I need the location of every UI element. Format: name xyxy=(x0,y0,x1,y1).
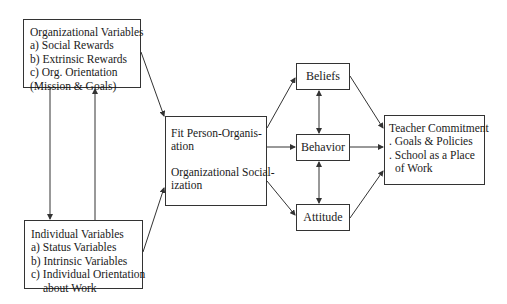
individual-item: c) Individual Orientation xyxy=(31,268,142,281)
teacher-title: Teacher Commitment xyxy=(389,122,484,135)
beliefs-box: Beliefs xyxy=(296,63,350,90)
org-title: Organizational Variables xyxy=(30,26,140,39)
arrow-attitude-to-teacher xyxy=(350,171,383,218)
individual-variables-box: Individual Variables a) Status Variables… xyxy=(24,220,143,289)
teacher-item: of Work xyxy=(389,162,484,175)
individual-item: b) Intrinsic Variables xyxy=(31,255,142,268)
teacher-item: . School as a Place xyxy=(389,149,484,162)
beliefs-label: Beliefs xyxy=(306,70,340,83)
org-item: a) Social Rewards xyxy=(30,39,140,52)
behavior-box: Behavior xyxy=(296,134,350,161)
arrow-fit-to-beliefs xyxy=(267,78,295,128)
socialization-text: Organizational Social- xyxy=(171,166,266,179)
individual-title: Individual Variables xyxy=(31,228,142,241)
teacher-item: . Goals & Policies xyxy=(389,135,484,148)
individual-item: about Work xyxy=(31,282,142,295)
individual-item: a) Status Variables xyxy=(31,241,142,254)
arrow-individual-to-fit xyxy=(143,188,164,252)
org-item: (Mission & Goals) xyxy=(30,80,140,93)
arrow-fit-to-attitude xyxy=(267,181,295,215)
behavior-label: Behavior xyxy=(301,141,345,154)
org-item: b) Extrinsic Rewards xyxy=(30,53,140,66)
arrow-beliefs-to-teacher xyxy=(350,76,383,128)
arrow-org-to-fit xyxy=(141,52,164,116)
attitude-box: Attitude xyxy=(296,204,350,231)
fit-socialization-box: Fit Person-Organis- ation Organizational… xyxy=(165,116,267,206)
socialization-text: ization xyxy=(171,179,266,192)
fit-text: ation xyxy=(171,140,266,153)
teacher-commitment-box: Teacher Commitment . Goals & Policies . … xyxy=(384,115,485,185)
attitude-label: Attitude xyxy=(303,211,342,224)
org-item: c) Org. Orientation xyxy=(30,66,140,79)
organizational-variables-box: Organizational Variables a) Social Rewar… xyxy=(23,19,141,88)
fit-text: Fit Person-Organis- xyxy=(171,127,266,140)
